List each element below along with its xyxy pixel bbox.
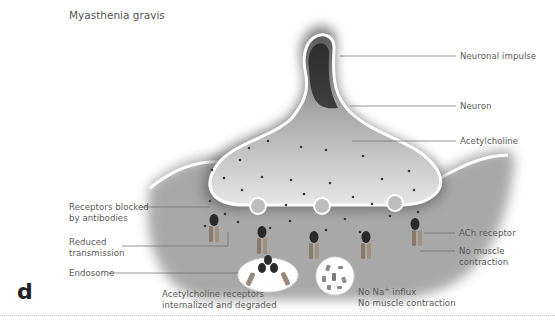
label-receptors-internalized: Acetylcholine receptors internalized and… bbox=[162, 289, 277, 311]
figure-title: Myasthenia gravis bbox=[69, 9, 165, 21]
label-neuron: Neuron bbox=[460, 101, 492, 112]
label-receptors-internalized-line1: Acetylcholine receptors bbox=[162, 289, 277, 300]
panel-letter: d bbox=[17, 279, 33, 304]
label-no-na-influx-line1: No Na+ influx bbox=[358, 283, 456, 298]
no-na-prefix: No Na bbox=[358, 287, 384, 297]
label-no-muscle-contraction: No muscle contraction bbox=[459, 246, 508, 268]
label-no-muscle-contraction-line2: contraction bbox=[459, 257, 508, 268]
label-acetylcholine: Acetylcholine bbox=[460, 136, 518, 147]
label-ach-receptor: ACh receptor bbox=[459, 228, 516, 239]
label-reduced-transmission: Reduced transmission bbox=[69, 237, 125, 259]
label-reduced-transmission-line2: transmission bbox=[69, 248, 125, 259]
label-receptors-blocked-line2: by antibodies bbox=[69, 213, 149, 224]
label-no-muscle-contraction-2: No muscle contraction bbox=[358, 298, 456, 309]
label-receptors-blocked-line1: Receptors blocked bbox=[69, 202, 149, 213]
label-no-na-influx: No Na+ influx No muscle contraction bbox=[358, 283, 456, 309]
label-no-muscle-contraction-line1: No muscle bbox=[459, 246, 508, 257]
bottom-divider bbox=[0, 315, 555, 316]
degraded-receptor-vesicle bbox=[316, 257, 354, 295]
neuron bbox=[203, 26, 444, 210]
label-endosome: Endosome bbox=[69, 268, 114, 279]
label-receptors-internalized-line2: internalized and degraded bbox=[162, 300, 277, 311]
label-neuronal-impulse: Neuronal impulse bbox=[460, 51, 536, 62]
label-reduced-transmission-line1: Reduced bbox=[69, 237, 125, 248]
label-receptors-blocked: Receptors blocked by antibodies bbox=[69, 202, 149, 224]
no-na-suffix: influx bbox=[389, 287, 416, 297]
